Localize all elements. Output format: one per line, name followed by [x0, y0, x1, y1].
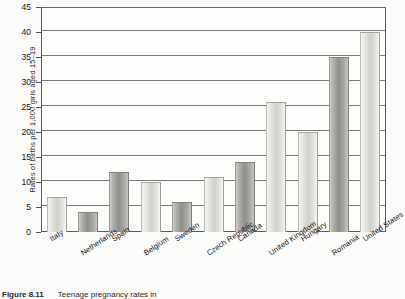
bar-series [41, 7, 386, 232]
bar-italy [47, 197, 67, 232]
y-tick-label-30: 30 [0, 77, 31, 87]
y-tick-label-35: 35 [0, 52, 31, 62]
x-label-romania: Romania [330, 233, 361, 258]
y-tick-label-15: 15 [0, 152, 31, 162]
x-label-belgium: Belgium [142, 234, 170, 257]
bar-spain [109, 172, 129, 232]
bar-czech-republic [204, 177, 224, 232]
caption-number: Figure 8.11 [2, 290, 44, 299]
bar-belgium [141, 182, 161, 232]
y-tick-label-10: 10 [0, 177, 31, 187]
y-tick-label-5: 5 [0, 202, 31, 212]
y-tick-label-0: 0 [0, 227, 31, 237]
y-tick-label-45: 45 [0, 2, 31, 12]
bar-united-kingdom [266, 102, 286, 232]
y-tick-label-20: 20 [0, 127, 31, 137]
bar-romania [329, 57, 349, 232]
bar-united-states [360, 32, 380, 232]
caption-text: Teenage pregnancy rates in [58, 290, 157, 299]
y-tick-label-25: 25 [0, 102, 31, 112]
y-tick-label-40: 40 [0, 27, 31, 37]
figure-caption: Figure 8.11Teenage pregnancy rates in [2, 290, 157, 299]
bar-hungary [298, 132, 318, 232]
y-tick-0 [36, 232, 41, 233]
bar-netherlands [78, 212, 98, 232]
